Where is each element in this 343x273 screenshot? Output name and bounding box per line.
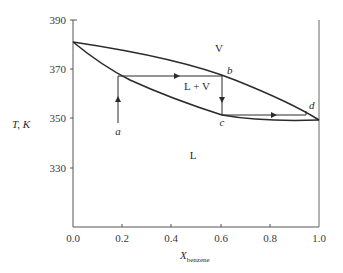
y-axis-title: T, K	[12, 118, 31, 130]
point-label-a: a	[115, 125, 121, 137]
arrow-down-icon	[219, 97, 225, 103]
x-axis-title: Xbenzene	[179, 249, 210, 264]
point-label-d: d	[309, 99, 315, 111]
y-tick-330: 330	[50, 162, 67, 174]
arrow-right-icon	[271, 112, 277, 118]
y-tick-370: 370	[50, 63, 67, 75]
x-tick-0: 0.0	[66, 232, 80, 244]
y-tick-390: 390	[50, 14, 67, 26]
x-tick-1-0: 1.0	[312, 232, 326, 244]
point-label-b: b	[227, 64, 233, 76]
region-label-liquid: L	[190, 149, 197, 161]
y-tick-350: 350	[50, 112, 67, 124]
phase-diagram: 390 370 350 330 0.0 0.2 0.4 0.6 0.8 1.0 …	[0, 0, 343, 273]
x-tick-0-4: 0.4	[164, 232, 178, 244]
x-tick-0-6: 0.6	[214, 232, 228, 244]
x-tick-0-8: 0.8	[263, 232, 277, 244]
x-tick-0-2: 0.2	[115, 232, 129, 244]
x-axis-title-sub: benzene	[187, 256, 210, 264]
region-label-vapor: V	[215, 42, 223, 54]
region-label-two-phase: L + V	[184, 80, 210, 92]
arrow-right-icon	[174, 73, 180, 79]
arrow-up-icon	[115, 96, 121, 102]
point-label-c: c	[220, 116, 225, 128]
